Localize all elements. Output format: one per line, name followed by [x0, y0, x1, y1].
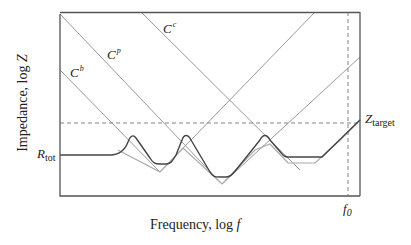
cc-label-sup: c: [173, 20, 177, 29]
cc-label-base: C: [163, 21, 172, 36]
cc-label: Cc: [163, 20, 176, 37]
cp-label-sup: p: [117, 46, 121, 55]
y-axis-label-text: Impedance, log: [15, 62, 30, 152]
impedance-frequency-diagram: Impedance, log Z Frequency, log f Cb Cp …: [0, 0, 411, 245]
cb-label-base: C: [70, 65, 79, 80]
cb-label-sup: b: [80, 64, 84, 73]
x-axis-label-var: f: [237, 217, 241, 232]
rtot-label-sub: tot: [45, 152, 56, 163]
cp-asymptote-line: [60, 14, 222, 184]
inductive-asymptote-line-2: [222, 57, 360, 184]
cb-label: Cb: [70, 64, 84, 81]
cp-label-base: C: [107, 47, 116, 62]
f0-label: f0: [343, 201, 352, 218]
ideal-impedance-curve: [118, 120, 360, 184]
ztarget-label-sub: target: [372, 117, 395, 128]
ztarget-label: Ztarget: [365, 111, 395, 128]
actual-impedance-curve: [60, 120, 360, 177]
f0-label-sub: 0: [347, 207, 352, 218]
x-axis-label-text: Frequency, log: [150, 217, 237, 232]
y-axis-label-var: Z: [15, 54, 30, 62]
rtot-label-base: R: [37, 146, 45, 161]
rtot-label: Rtot: [37, 146, 56, 163]
axes: [60, 14, 360, 196]
x-axis-label: Frequency, log f: [150, 217, 240, 233]
y-axis-label: Impedance, log Z: [15, 38, 31, 168]
cp-label: Cp: [107, 46, 121, 63]
cb-asymptote-line: [60, 70, 160, 172]
